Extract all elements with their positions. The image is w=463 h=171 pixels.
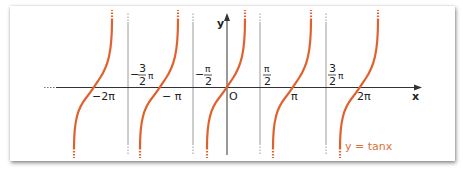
label-3pi-2: 3 2 π: [328, 62, 344, 88]
svg-text:2: 2: [329, 75, 336, 88]
branch-pi: [273, 20, 311, 148]
svg-text:π: π: [148, 71, 154, 81]
label-neg-3pi-2: − 3 2 π: [130, 62, 154, 88]
function-label: y = tanx: [345, 140, 393, 153]
svg-text:2: 2: [139, 75, 146, 88]
branch-neg-2pi: [74, 20, 112, 148]
y-axis-label: y: [217, 17, 224, 30]
x-axis-label: x: [412, 90, 419, 103]
tan-graph: −2π − π π 2π O y x − 3 2 π − π 2 π 2 3 2…: [0, 0, 463, 171]
label-neg-pi-2: − π 2: [195, 64, 212, 88]
label-pi-2: π 2: [263, 64, 271, 88]
label-neg-pi: − π: [162, 90, 182, 103]
svg-text:π: π: [338, 71, 344, 81]
branch-2pi: [340, 20, 378, 148]
y-axis-arrow-icon: [224, 13, 230, 21]
origin-label: O: [229, 90, 238, 103]
svg-text:3: 3: [139, 62, 146, 75]
svg-text:2: 2: [264, 75, 271, 88]
svg-text:−: −: [130, 68, 139, 81]
svg-text:π: π: [205, 64, 211, 74]
svg-text:−: −: [195, 68, 204, 81]
label-neg-2pi: −2π: [92, 90, 115, 103]
svg-text:3: 3: [329, 62, 336, 75]
label-pi: π: [291, 90, 298, 103]
branch-0: [207, 20, 245, 148]
label-2pi: 2π: [357, 90, 371, 103]
svg-text:2: 2: [205, 75, 212, 88]
svg-text:π: π: [264, 64, 270, 74]
